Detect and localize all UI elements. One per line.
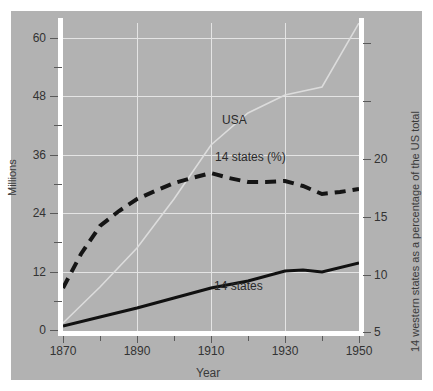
axis-tick-right — [363, 159, 371, 160]
axis-tick-left — [50, 272, 58, 273]
axis-tick-left — [50, 155, 58, 156]
axis-tick-left — [54, 184, 62, 185]
axis-tick-bottom — [211, 336, 212, 343]
axis-title-left: Millions — [6, 159, 18, 196]
axis-tick-bottom — [100, 336, 101, 341]
axis-label-bottom-1930: 1930 — [260, 344, 310, 358]
series-label-14-states: 14 states — [214, 279, 263, 293]
axis-tick-bottom — [63, 336, 64, 343]
axis-label-bottom-1870: 1870 — [38, 344, 88, 358]
axis-tick-bottom — [248, 336, 249, 341]
axis-tick-bottom — [322, 336, 323, 341]
axis-title-bottom: Year — [196, 366, 220, 380]
chart-figure: 60 48 36 24 12 0 20 15 10 5 1870 1890 19… — [0, 0, 433, 391]
axis-label-right-5: 5 — [374, 325, 381, 339]
axis-tick-left — [50, 213, 58, 214]
axis-tick-left — [54, 67, 62, 68]
axis-tick-left — [54, 242, 62, 243]
axis-tick-left — [54, 301, 62, 302]
axis-label-right-20: 20 — [374, 152, 387, 166]
axis-tick-bottom — [137, 336, 138, 343]
axis-label-left-60: 60 — [18, 31, 46, 45]
axis-tick-left — [50, 96, 58, 97]
series-label-percent: 14 states (%) — [215, 150, 286, 164]
axis-tick-bottom — [285, 336, 286, 343]
series-line-usa — [63, 23, 359, 323]
axis-tick-left — [54, 125, 62, 126]
series-lines — [63, 23, 359, 331]
axis-tick-right — [363, 275, 371, 276]
axis-tick-right — [363, 217, 371, 218]
axis-tick-right — [363, 43, 371, 44]
axis-tick-bottom — [174, 336, 175, 341]
axis-label-left-12: 12 — [18, 265, 46, 279]
series-label-usa: USA — [222, 113, 247, 127]
axis-label-bottom-1890: 1890 — [112, 344, 162, 358]
axis-title-right: 14 western states as a percentage of the… — [409, 111, 421, 352]
axis-label-left-24: 24 — [18, 206, 46, 220]
axis-tick-left — [50, 38, 58, 39]
axis-tick-right — [363, 332, 371, 333]
axis-label-left-48: 48 — [18, 89, 46, 103]
axis-label-bottom-1910: 1910 — [186, 344, 236, 358]
axis-label-right-15: 15 — [374, 210, 387, 224]
axis-label-bottom-1950: 1950 — [334, 344, 384, 358]
axis-tick-bottom — [359, 336, 360, 343]
axis-label-right-10: 10 — [374, 268, 387, 282]
axis-gutter-right — [359, 18, 364, 336]
series-line-states — [63, 263, 359, 326]
axis-tick-left — [50, 330, 58, 331]
axis-tick-right — [363, 101, 371, 102]
axis-label-left-0: 0 — [18, 323, 46, 337]
axis-label-left-36: 36 — [18, 148, 46, 162]
